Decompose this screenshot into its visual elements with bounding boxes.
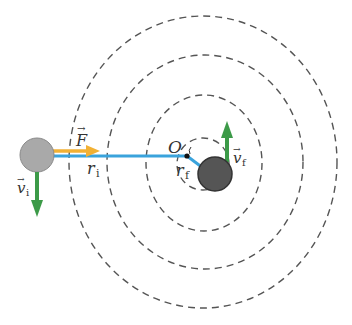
- center-label: O: [168, 137, 182, 157]
- initial-velocity-label: → v i: [17, 174, 29, 198]
- initial-velocity-arrow: [31, 172, 43, 217]
- initial-particle: [20, 138, 54, 172]
- center-point: [184, 153, 189, 158]
- angle-mark: [189, 147, 191, 154]
- final-velocity-arrow: [221, 121, 233, 162]
- final-radius-label: r f: [176, 161, 190, 182]
- svg-text:i: i: [96, 167, 100, 180]
- svg-text:r: r: [176, 161, 185, 180]
- svg-text:F: F: [75, 131, 88, 150]
- final-velocity-label: → v f: [233, 144, 247, 168]
- force-label: → F: [75, 123, 88, 150]
- svg-text:v: v: [17, 179, 26, 197]
- svg-text:i: i: [26, 187, 29, 198]
- svg-text:r: r: [87, 159, 96, 178]
- svg-text:f: f: [185, 169, 190, 182]
- orbit-diagram: O → F r i r f → v i → v f: [0, 0, 352, 325]
- initial-radius-label: r i: [87, 159, 100, 180]
- final-particle: [198, 157, 232, 191]
- svg-text:f: f: [242, 157, 247, 168]
- svg-text:v: v: [233, 149, 242, 167]
